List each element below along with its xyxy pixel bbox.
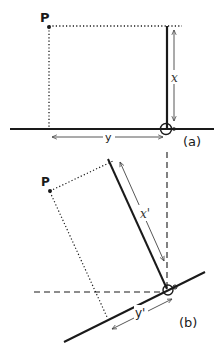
panel-a-y-label: y	[105, 131, 112, 144]
panel-b: P x' y' (b)	[34, 152, 205, 342]
panel-b-point-p	[48, 189, 52, 193]
panel-b-y-prime-label: y'	[135, 306, 145, 320]
panel-a: P x y (a)	[10, 10, 214, 149]
panel-b-dotted-to-rod	[50, 161, 113, 191]
panel-b-x-prime-label: x'	[140, 207, 150, 221]
diagram-canvas: P x y (a) P x' y	[0, 0, 224, 359]
panel-a-x-label: x	[171, 71, 178, 85]
panel-b-tilted-rod	[108, 159, 167, 289]
panel-b-tag: (b)	[179, 315, 197, 330]
panel-a-point-label: P	[40, 10, 50, 25]
panel-b-point-label: P	[41, 175, 50, 189]
panel-a-tag: (a)	[183, 134, 201, 149]
panel-a-point-p	[47, 25, 51, 29]
panel-b-dotted-to-axis	[50, 192, 107, 317]
